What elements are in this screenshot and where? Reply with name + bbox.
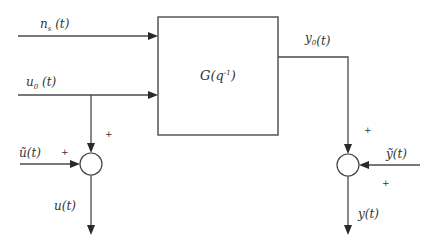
input-sum-sign-top: + [105, 129, 113, 139]
control-input-arrowhead [148, 91, 158, 99]
output-arrowhead [344, 144, 352, 154]
input-summing-junction [80, 153, 102, 175]
noise-input-arrowhead [148, 32, 158, 40]
input-noise-arrowhead [70, 160, 80, 168]
output-summing-junction [337, 154, 359, 176]
input-sum-sign-left: + [61, 147, 69, 157]
measured-output-label: y(t) [357, 207, 379, 221]
output-sum-sign-top: + [364, 125, 372, 135]
measured-output-arrowhead [344, 225, 352, 235]
measured-input-label: u(t) [54, 199, 76, 213]
output-noise-label: ỹ(t) [385, 147, 407, 161]
output-line [278, 57, 348, 146]
control-branch-arrowhead [87, 143, 95, 153]
noise-input-label: ns (t) [40, 17, 70, 33]
measured-input-arrowhead [87, 225, 95, 235]
control-input-label: u0 (t) [26, 75, 57, 91]
output-label: y0(t) [304, 31, 331, 48]
input-noise-label: ũ(t) [19, 146, 41, 160]
system-block-label: G(q-1) [200, 68, 236, 83]
output-sum-sign-right: + [382, 178, 390, 188]
block-diagram: G(q-1) ns (t) u0 (t) + ũ(t) + u(t) y0(t)… [0, 0, 436, 250]
output-noise-arrowhead [359, 161, 369, 169]
